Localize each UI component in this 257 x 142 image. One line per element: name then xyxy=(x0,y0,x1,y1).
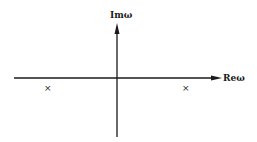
imaginary-axis-label: Imω xyxy=(110,11,132,20)
pole-marker-right-icon: × xyxy=(182,84,190,93)
real-axis-label: Reω xyxy=(223,74,245,83)
real-axis-arrowhead-icon xyxy=(211,76,222,81)
axes-graphic xyxy=(0,0,257,142)
pole-marker-left-icon: × xyxy=(44,84,52,93)
imaginary-axis-arrowhead-icon xyxy=(115,23,120,34)
